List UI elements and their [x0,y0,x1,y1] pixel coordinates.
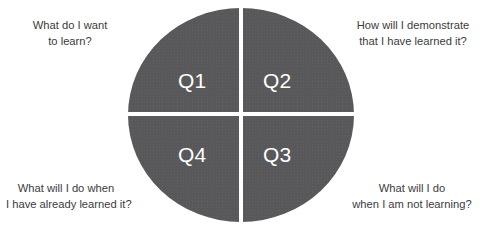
quadrant-label-q4: Q4 [178,144,206,165]
caption-bottom-right: What will I do when I am not learning? [346,181,478,212]
quadrant-label-q1: Q1 [178,70,206,91]
caption-top-right-line-2: that I have learned it? [348,34,478,50]
caption-top-left-line-2: to learn? [14,34,126,50]
caption-top-right-line-1: How will I demonstrate [348,18,478,34]
caption-bottom-left: What will I do when I have already learn… [6,181,126,212]
caption-bottom-left-line-2: I have already learned it? [6,197,126,213]
quadrant-label-q3: Q3 [263,144,291,165]
caption-bottom-left-line-1: What will I do when [6,181,126,197]
caption-bottom-right-line-2: when I am not learning? [346,197,478,213]
quadrant-label-q2: Q2 [263,70,291,91]
caption-top-left: What do I want to learn? [14,18,126,49]
caption-bottom-right-line-1: What will I do [346,181,478,197]
quadrant-circle: Q1 Q2 Q3 Q4 [128,8,354,222]
diagram-canvas: What do I want to learn? How will I demo… [0,0,484,232]
caption-top-left-line-1: What do I want [14,18,126,34]
divider-horizontal [127,112,355,116]
caption-top-right: How will I demonstrate that I have learn… [348,18,478,49]
